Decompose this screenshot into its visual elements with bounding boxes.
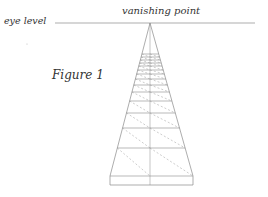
diagonal-dash — [150, 92, 172, 101]
diagonal-dash — [150, 57, 160, 60]
diagonal-dash — [140, 60, 150, 63]
diagonal-dash — [130, 101, 150, 113]
diagonal-dash — [134, 85, 150, 92]
diagonal-dash — [140, 63, 150, 66]
diagonal-dash — [150, 63, 162, 66]
right-edge-line — [150, 23, 193, 176]
diagonal-dash — [142, 54, 150, 57]
diagonal-dash — [139, 66, 150, 70]
diagonal-dash — [150, 101, 175, 113]
speck — [26, 43, 27, 44]
diagonal-dash — [150, 66, 163, 70]
diagonal-dash — [150, 70, 164, 74]
diagonal-dash — [126, 113, 150, 128]
diagonal-dash — [141, 57, 150, 60]
perspective-diagram — [0, 0, 268, 197]
diagonal-dash — [132, 92, 150, 101]
diagonal-dash — [150, 60, 161, 63]
diagonal-dash — [150, 113, 180, 128]
diagonal-dash — [150, 74, 166, 79]
diagonal-dash — [135, 79, 150, 85]
diagonal-dash — [150, 85, 169, 92]
diagonal-dash — [138, 70, 150, 74]
diagonal-dash — [123, 128, 150, 148]
diagonal-dash — [150, 54, 160, 57]
left-edge-line — [110, 23, 150, 176]
diagonal-dash — [150, 79, 167, 85]
diagonal-dash — [117, 148, 150, 176]
diagonal-dash — [150, 128, 185, 148]
diagonal-dash — [137, 74, 150, 79]
